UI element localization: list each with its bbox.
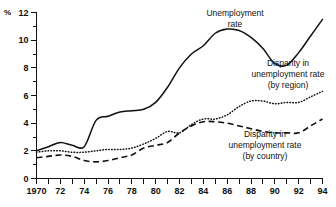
- x-tick-label: 92: [294, 186, 304, 196]
- series-annotations: UnemploymentrateDisparity inunemployment…: [206, 8, 324, 161]
- y-axis-major-ticks: [31, 13, 37, 179]
- x-tick-label: 88: [246, 186, 256, 196]
- y-tick-label: 8: [23, 63, 28, 73]
- chart-canvas: 024681012 % 1970727476788082848688909294…: [0, 0, 336, 207]
- x-tick-label: 1970: [26, 186, 46, 196]
- unemployment-rate-label-line: rate: [228, 19, 243, 29]
- y-tick-label: 10: [18, 35, 28, 45]
- y-axis-unit-label: %: [4, 8, 11, 17]
- x-axis: 1970727476788082848688909294: [26, 179, 327, 196]
- x-tick-label: 74: [79, 186, 89, 196]
- unemployment-rate-label-line: Unemployment: [206, 8, 264, 18]
- y-tick-label: 12: [18, 8, 28, 18]
- disparity-country-label: Disparity inunemployment rate(by country…: [229, 129, 302, 161]
- x-tick-label: 78: [127, 186, 137, 196]
- x-tick-label: 80: [151, 186, 161, 196]
- unemployment-rate-chart: 024681012 % 1970727476788082848688909294…: [0, 0, 336, 207]
- x-tick-label: 90: [270, 186, 280, 196]
- y-axis-tick-labels: 024681012: [18, 8, 28, 184]
- disparity-country-label-line: unemployment rate: [229, 140, 302, 150]
- x-axis-ticks: [37, 179, 323, 184]
- y-tick-label: 4: [23, 118, 28, 128]
- disparity-region-label-line: Disparity in: [267, 58, 309, 68]
- disparity-region-label-line: unemployment rate: [252, 69, 325, 79]
- x-tick-label: 82: [174, 186, 184, 196]
- x-axis-tick-labels: 1970727476788082848688909294: [26, 186, 327, 196]
- disparity-country-label-line: (by country): [243, 151, 288, 161]
- disparity-country-label-line: Disparity in: [244, 129, 286, 139]
- x-tick-label: 94: [317, 186, 327, 196]
- x-tick-label: 86: [222, 186, 232, 196]
- x-tick-label: 72: [55, 186, 65, 196]
- x-tick-label: 76: [103, 186, 113, 196]
- unemployment-rate-label: Unemploymentrate: [206, 8, 264, 29]
- x-tick-label: 84: [198, 186, 208, 196]
- y-tick-label: 2: [23, 146, 28, 156]
- y-tick-label: 0: [23, 174, 28, 184]
- y-tick-label: 6: [23, 91, 28, 101]
- y-axis: 024681012 %: [4, 8, 37, 184]
- disparity-region-label-line: (by region): [268, 80, 309, 90]
- disparity-region-label: Disparity inunemployment rate(by region): [252, 58, 325, 90]
